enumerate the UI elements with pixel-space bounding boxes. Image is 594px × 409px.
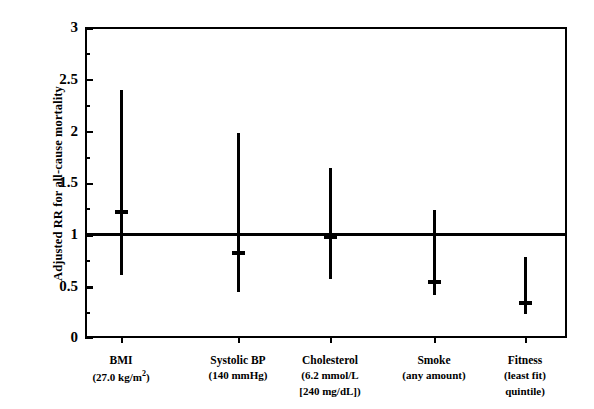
y-tick-label-2: 2	[18, 124, 78, 139]
point-marker-systolic-bp	[232, 251, 245, 255]
y-tick-label-3: 3	[18, 20, 78, 35]
error-bar-bmi	[120, 90, 123, 275]
x-category-sub-fitness-1: (least fit)	[450, 368, 594, 384]
y-tick-mark-1.25	[85, 208, 90, 210]
y-tick-mark-2.75	[85, 53, 90, 55]
x-category-label-fitness: Fitness (least fit) quintile)	[450, 352, 594, 400]
error-bar-cholesterol	[329, 168, 332, 279]
y-tick-label-0.5: 0.5	[18, 279, 78, 294]
y-tick-mark-2.25	[85, 105, 90, 107]
x-tick-mark-smoke	[434, 336, 436, 343]
y-tick-label-0: 0	[18, 330, 78, 345]
point-marker-fitness	[519, 301, 532, 305]
x-category-sub-bmi-close: )	[146, 371, 150, 383]
x-category-sub-fitness-2: quintile)	[450, 384, 594, 400]
point-marker-bmi	[115, 210, 128, 214]
chart-figure: Adjusted RR for all-cause mortality 3 2.…	[0, 0, 594, 409]
y-tick-mark-0.25	[85, 312, 90, 314]
x-tick-mark-fitness	[525, 336, 527, 343]
y-tick-mark-0	[85, 336, 93, 339]
y-axis-tick-labels: 3 2.5 2 1.5 1 0.5 0	[0, 0, 594, 409]
x-category-sub-cholesterol-2: [240 mg/dL])	[255, 384, 405, 400]
x-category-sub-bmi-text: (27.0 kg/m	[92, 371, 142, 383]
y-tick-mark-0.75	[85, 260, 90, 262]
x-tick-mark-systolic-bp	[238, 336, 240, 343]
x-tick-mark-cholesterol	[330, 336, 332, 343]
x-tick-mark-bmi	[121, 336, 123, 343]
error-bar-fitness	[524, 257, 527, 314]
y-tick-mark-1.5	[85, 183, 93, 186]
y-tick-label-1.5: 1.5	[18, 175, 78, 190]
y-tick-mark-0.5	[85, 286, 93, 289]
y-tick-mark-3	[85, 27, 93, 30]
error-bar-systolic-bp	[237, 133, 240, 292]
x-category-name-fitness: Fitness	[450, 352, 594, 368]
y-tick-label-1: 1	[18, 227, 78, 242]
point-marker-smoke	[428, 280, 441, 284]
y-tick-label-2.5: 2.5	[18, 72, 78, 87]
y-tick-mark-2.5	[85, 79, 93, 82]
y-tick-mark-1.75	[85, 157, 90, 159]
y-tick-mark-2	[85, 131, 93, 134]
point-marker-cholesterol	[324, 235, 337, 239]
